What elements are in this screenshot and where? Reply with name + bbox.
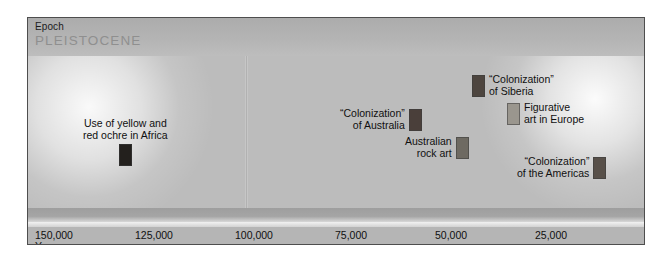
timeline-event[interactable]: “Colonization” of Australia <box>340 108 422 132</box>
timeline-event-label: Australian rock art <box>405 136 452 160</box>
timeline-event-label: Figurative art in Europe <box>524 102 584 126</box>
axis-tick-label: 50,000 <box>435 229 467 241</box>
timeline-event[interactable]: “Colonization” of Siberia <box>472 74 554 98</box>
timeline-event-label: Use of yellow and red ochre in Africa <box>83 118 168 142</box>
axis-tick-label: 125,000 <box>135 229 173 241</box>
axis-tick-label: 75,000 <box>335 229 367 241</box>
axis-tick-label: 25,000 <box>535 229 567 241</box>
timeline-event[interactable]: Australian rock art <box>405 136 469 160</box>
timeline-event[interactable]: Figurative art in Europe <box>507 102 584 126</box>
timeline-event-thumbnail[interactable] <box>409 109 422 131</box>
timeline-figure: Epoch PLEISTOCENE Use of yellow and red … <box>27 17 645 245</box>
epoch-name-pleistocene: PLEISTOCENE <box>35 33 141 48</box>
axis-area: Years ago 150,000125,000100,00075,00050,… <box>28 227 644 244</box>
epoch-divider <box>245 56 248 208</box>
timeline-event[interactable]: Use of yellow and red ochre in Africa <box>83 118 168 166</box>
timeline-event[interactable]: “Colonization” of the Americas <box>517 156 606 180</box>
plot-area: Use of yellow and red ochre in Africa“Co… <box>28 56 644 208</box>
timeline-event-thumbnail[interactable] <box>472 75 485 97</box>
timeline-event-label: “Colonization” of Australia <box>340 108 405 132</box>
timeline-event-thumbnail[interactable] <box>456 137 469 159</box>
timeline-event-thumbnail[interactable] <box>593 157 606 179</box>
timeline-event-thumbnail[interactable] <box>507 103 520 125</box>
timeline-event-thumbnail[interactable] <box>119 144 132 166</box>
timeline-event-label: “Colonization” of the Americas <box>517 156 589 180</box>
epoch-band: Epoch PLEISTOCENE <box>28 18 644 56</box>
axis-tick-label: 150,000 <box>35 229 73 241</box>
axis-tick-label: 100,000 <box>235 229 273 241</box>
timeline-event-label: “Colonization” of Siberia <box>489 74 554 98</box>
epoch-header-label: Epoch <box>35 21 64 32</box>
axis-strip <box>28 208 644 222</box>
